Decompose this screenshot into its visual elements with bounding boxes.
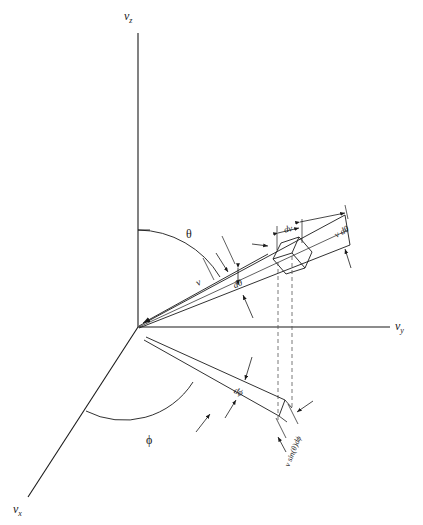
projection-dashed-lines [278,256,292,420]
velocity-vector-v [143,254,268,323]
dim-v-dtheta [300,205,351,268]
axis-label-vz: vz [124,10,132,25]
dim-dphi [196,357,252,432]
velocity-space-diagram [0,0,423,525]
dim-dtheta [203,236,268,318]
angle-label-phi: ϕ [146,434,152,446]
axis-label-vy: vy [395,320,404,335]
angle-label-theta: θ [186,228,192,240]
axis-vx [28,327,138,497]
figure-canvas: vz vy vx θ ϕ v dv v dθ dθ dϕ v sin(θ)dϕ [0,0,423,525]
phi-arc [86,382,193,420]
phi-wedge [144,337,292,422]
theta-wedge [139,215,350,328]
axis-label-vx: vx [13,503,22,518]
theta-arc [138,230,220,277]
